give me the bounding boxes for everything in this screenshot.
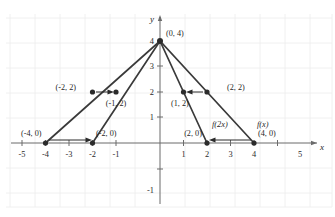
x-tick-neg2: -2 [89,150,96,159]
point-neg4-0 [43,140,48,145]
label-point-neg2-2: (-2, 2) [56,83,77,92]
y-tick-3: 3 [150,62,154,71]
x-tick-1: 1 [181,150,185,159]
y-tick-2: 2 [150,88,154,97]
label-point-4-0: (4, 0) [258,129,276,138]
x-tick-5: 5 [298,150,302,159]
point-2-0 [204,140,209,145]
point-4-0 [251,140,256,145]
point-0-4 [157,38,163,44]
point-1-2 [181,89,186,94]
label-point-2-2: (2, 2) [227,83,245,92]
label-point-2-0: (2, 0) [184,129,202,138]
label-point-0-4: (0, 4) [166,29,184,38]
function-transformation-graph: x y -5 -4 -3 -2 -1 1 2 3 4 5 4 3 2 [0,0,335,217]
y-tick-neg1: -1 [147,186,154,195]
x-tick-neg4: -4 [42,150,50,159]
x-axis-label: x [319,142,324,152]
point-2-2 [204,89,209,94]
x-tick-neg5: -5 [19,150,26,159]
label-curve-f-of-x: f(x) [257,120,269,129]
x-tick-2: 2 [205,150,209,159]
label-point-neg2-0: (-2, 0) [96,129,117,138]
x-tick-neg3: -3 [66,150,73,159]
y-tick-1: 1 [150,113,154,122]
x-tick-3: 3 [228,150,232,159]
label-curve-f-of-2x: f(2x) [212,120,228,129]
label-point-neg1-2: (-1, 2) [106,99,127,108]
point-neg1-2 [113,89,118,94]
label-point-1-2: (1, 2) [171,99,189,108]
point-neg2-2 [90,89,95,94]
y-axis-label: y [149,14,154,24]
x-tick-neg1: -1 [113,150,120,159]
label-point-neg4-0: (-4, 0) [21,129,42,138]
point-neg2-0 [90,140,95,145]
